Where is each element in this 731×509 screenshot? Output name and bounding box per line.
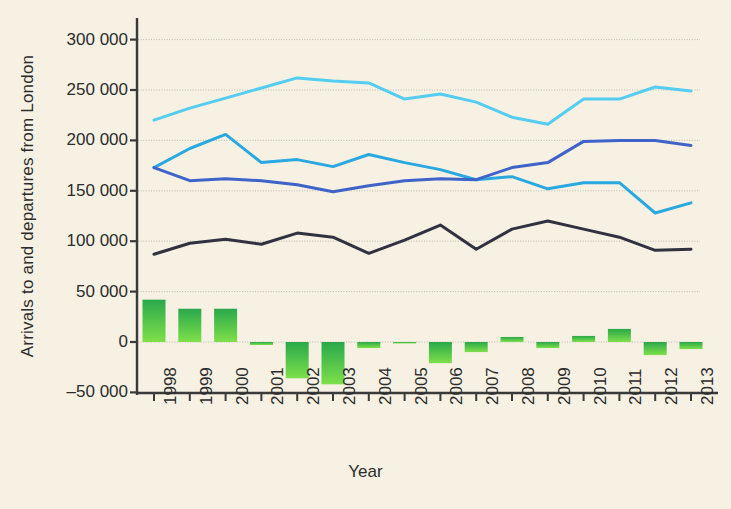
x-tick-label: 2008 [519, 367, 539, 405]
x-tick-label: 1998 [161, 367, 181, 405]
x-tick-label: 2005 [412, 367, 432, 405]
chart-container: Arrivals to and departures from London 3… [0, 0, 731, 509]
x-tick-label: 2001 [268, 367, 288, 405]
line-medium-blue-line [154, 134, 691, 213]
bar [393, 342, 416, 344]
x-tick-label: 2013 [698, 367, 718, 405]
bar [250, 342, 273, 345]
x-tick-label: 2009 [555, 367, 575, 405]
line-light-cyan-line [154, 78, 691, 124]
bar [644, 342, 667, 355]
x-tick-label: 2003 [340, 367, 360, 405]
bar [214, 309, 237, 342]
bar [572, 336, 595, 342]
bar [608, 329, 631, 342]
axes [130, 18, 718, 401]
line-dark-navy-line [154, 221, 691, 254]
x-tick-label: 1999 [197, 367, 217, 405]
bar [143, 300, 166, 342]
bar [501, 337, 524, 342]
bar [178, 309, 201, 342]
x-tick-label: 2002 [304, 367, 324, 405]
x-tick-label: 2012 [662, 367, 682, 405]
bar [357, 342, 380, 348]
bar [429, 342, 452, 363]
x-tick-label: 2000 [233, 367, 253, 405]
x-axis-title: Year [0, 462, 731, 482]
x-tick-label: 2007 [483, 367, 503, 405]
x-tick-label: 2006 [447, 367, 467, 405]
x-tick-label: 2011 [626, 368, 646, 405]
bar [680, 342, 703, 349]
bar [465, 342, 488, 352]
bar [536, 342, 559, 348]
x-tick-label: 2010 [591, 367, 611, 405]
chart-plot-area [0, 0, 731, 509]
x-tick-label: 2004 [376, 367, 396, 405]
